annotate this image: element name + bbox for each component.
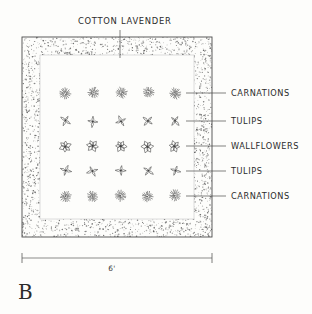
carnation-bloom-icon	[143, 87, 154, 97]
tulip-bloom-icon	[61, 116, 71, 126]
callout-tulips-4: TULIPS	[186, 166, 262, 176]
carnation-bloom-icon	[116, 87, 127, 98]
wallflower-bloom-icon	[141, 141, 154, 153]
wallflower-bloom-icon	[169, 141, 179, 152]
wallflower-bloom-icon	[59, 141, 71, 152]
bed-outline	[22, 37, 212, 237]
planting-row	[60, 190, 180, 202]
tulip-bloom-icon	[144, 167, 154, 175]
callout-label: TULIPS	[230, 166, 262, 176]
callout-carnations-1: CARNATIONS	[186, 88, 290, 98]
dimension-line-icon: 6'	[22, 253, 212, 273]
carnation-bloom-icon	[88, 87, 99, 97]
carnation-bloom-icon	[170, 88, 181, 99]
callout-label: WALLFLOWERS	[231, 141, 299, 151]
callout-label: CARNATIONS	[231, 191, 290, 201]
callout-tulips-2: TULIPS	[186, 116, 262, 126]
carnation-bloom-icon	[142, 191, 153, 202]
cotton-lavender-label: COTTON LAVENDER	[78, 16, 171, 26]
tulip-bloom-icon	[171, 166, 181, 175]
callout-label: CARNATIONS	[231, 88, 290, 98]
inner-planting-area	[40, 55, 194, 219]
wallflower-bloom-icon	[87, 141, 99, 152]
planting-grid	[59, 87, 181, 202]
tulip-bloom-icon	[88, 116, 98, 127]
planting-row	[61, 116, 179, 128]
planting-row	[60, 165, 181, 176]
wallflower-bloom-icon	[116, 141, 128, 151]
garden-plan-drawing: COTTON LAVENDER CARNATIONSTULIPSWALLFLOW…	[0, 0, 312, 314]
carnation-bloom-icon	[60, 191, 71, 201]
carnation-bloom-icon	[170, 190, 181, 201]
planting-row	[59, 141, 179, 153]
carnation-bloom-icon	[60, 88, 71, 99]
planting-row	[60, 87, 181, 99]
tulip-bloom-icon	[60, 165, 71, 175]
dimension-label: 6'	[108, 264, 115, 273]
stipple-border-icon	[21, 36, 212, 237]
callout-label: TULIPS	[230, 116, 262, 126]
tulip-bloom-icon	[115, 166, 126, 176]
tulip-bloom-icon	[143, 117, 152, 125]
tulip-bloom-icon	[172, 117, 180, 126]
carnation-bloom-icon	[115, 190, 126, 201]
tulip-bloom-icon	[116, 116, 126, 126]
tulip-bloom-icon	[87, 167, 98, 177]
carnation-bloom-icon	[88, 191, 98, 201]
plan-key-letter: B	[18, 280, 33, 304]
